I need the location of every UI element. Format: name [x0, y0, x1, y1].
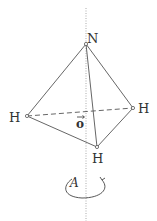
rotation-label: A: [70, 177, 79, 189]
bond-n-h3: [86, 44, 97, 147]
bond-n-h1: [27, 44, 86, 116]
bond-n-h2: [86, 44, 133, 108]
atom-label-n: N: [87, 32, 98, 45]
atom-h2-dot: [131, 106, 134, 109]
rotation-arrowhead-icon: [100, 177, 105, 180]
atom-label-h3: H: [92, 152, 103, 165]
atom-label-h1: H: [9, 111, 20, 124]
atom-h1-dot: [25, 114, 28, 117]
edge-h3-h2: [97, 108, 133, 147]
atom-h3-dot: [95, 145, 98, 148]
nh3-symmetry-diagram: N H H H o A: [0, 0, 157, 221]
origin-vector-label: o: [76, 118, 84, 130]
atom-label-h2: H: [138, 102, 149, 115]
edge-h1-h2-hidden: [27, 108, 133, 116]
